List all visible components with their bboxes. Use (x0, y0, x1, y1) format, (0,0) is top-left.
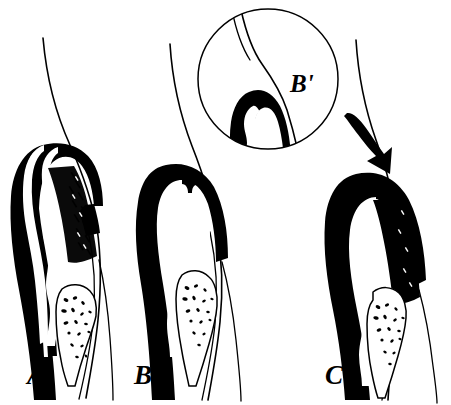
panel-label-a: A (25, 360, 45, 390)
dental-illustration-svg: A (0, 0, 451, 405)
panel-label-b: B (133, 360, 152, 390)
inset-label-b-prime: B' (289, 70, 314, 97)
panel-label-c: C (325, 360, 344, 390)
figure-container: A (0, 0, 451, 405)
